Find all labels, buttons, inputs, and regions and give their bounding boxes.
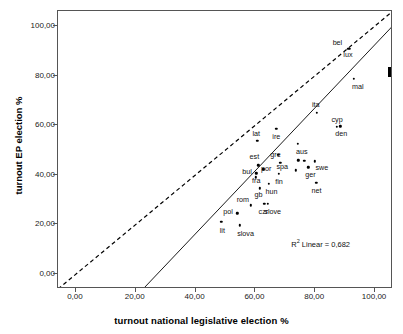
plot-area: belluxmalitacypdenlatireausgreestswespap… — [57, 10, 392, 288]
x-tick-label: 100,00 — [362, 292, 386, 301]
data-point-label: ger — [305, 172, 315, 179]
data-point-label: bul — [242, 169, 252, 176]
x-axis-title: turnout national legislative election % — [0, 315, 403, 326]
x-tick-mark — [374, 288, 375, 292]
x-tick-mark — [135, 288, 136, 292]
x-tick-label: 80,00 — [304, 292, 324, 301]
x-tick-mark — [75, 288, 76, 292]
y-tick-label: 0,00 — [0, 269, 55, 278]
data-point-label: ire — [272, 133, 280, 140]
x-tick-mark — [195, 288, 196, 292]
data-point-label: swe — [316, 165, 329, 172]
y-tick-label: 40,00 — [0, 169, 55, 178]
data-point-label: lit — [220, 227, 225, 234]
y-tick-label: 100,00 — [0, 20, 55, 29]
data-point-label: est — [250, 154, 260, 161]
x-tick-label: 60,00 — [244, 292, 264, 301]
data-point-label: cyp — [331, 116, 342, 123]
x-tick-label: 20,00 — [125, 292, 145, 301]
y-tick-label: 20,00 — [0, 219, 55, 228]
data-point-label: aus — [296, 148, 308, 155]
data-point-label: gb — [255, 192, 263, 199]
y-tick-label: 60,00 — [0, 120, 55, 129]
x-tick-label: 40,00 — [185, 292, 205, 301]
data-point-label: fin — [275, 178, 283, 185]
data-point-label: por — [261, 166, 271, 173]
data-point-label: lat — [252, 130, 260, 137]
data-point-label: spa — [276, 163, 288, 170]
data-point-label: lux — [343, 51, 352, 58]
data-point-label: ita — [312, 101, 320, 108]
data-point-label: slove — [264, 208, 281, 215]
scatter-chart: turnout EP election % turnout national l… — [0, 0, 403, 334]
data-point-label: bel — [333, 39, 343, 46]
data-point-label: slova — [237, 231, 254, 238]
data-point-label: fra — [252, 178, 260, 185]
y-axis-title: turnout EP election % — [13, 66, 24, 226]
r-squared-annotation: R2 Linear = 0,682 — [291, 238, 350, 249]
data-point-label: pol — [223, 209, 233, 216]
data-point-label: hun — [266, 188, 278, 195]
x-tick-mark — [314, 288, 315, 292]
data-point-label: mal — [352, 83, 364, 90]
regression-fit-line — [143, 26, 392, 288]
data-point-label: net — [311, 187, 321, 194]
data-point-label: gre — [270, 151, 280, 158]
data-point-label: den — [335, 131, 347, 138]
data-point-label: rom — [237, 197, 249, 204]
x-tick-mark — [254, 288, 255, 292]
r-squared-value-text: Linear = 0,682 — [300, 240, 350, 249]
y-tick-label: 80,00 — [0, 70, 55, 79]
x-tick-label: 0,00 — [67, 292, 83, 301]
